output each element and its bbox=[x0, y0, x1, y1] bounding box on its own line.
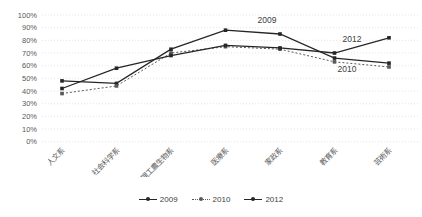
legend-label-2010: 2010 bbox=[213, 195, 231, 204]
data-point-marker-2012 bbox=[60, 87, 64, 91]
x-axis-category-label: 社会科学系 bbox=[89, 145, 122, 177]
data-point-marker-2009 bbox=[278, 32, 282, 36]
y-axis-tick-label: 100% bbox=[18, 11, 38, 20]
y-axis-tick-label: 90% bbox=[22, 23, 37, 32]
line-chart: 0%10%20%30%40%50%60%70%80%90%100%人文系社会科学… bbox=[0, 0, 422, 217]
data-point-marker-2009 bbox=[333, 56, 337, 60]
x-axis-category-label: 人文系 bbox=[44, 145, 67, 168]
x-axis-category-label: 芸術系 bbox=[371, 145, 394, 168]
x-axis-category-label: 医療系 bbox=[208, 145, 231, 168]
series-label-2012: 2012 bbox=[343, 34, 362, 44]
series-line-2009 bbox=[62, 30, 389, 83]
legend-line-marker-icon bbox=[244, 197, 262, 202]
data-point-marker-2009 bbox=[387, 61, 391, 65]
y-axis-tick-label: 50% bbox=[22, 74, 37, 83]
data-point-marker-2012 bbox=[333, 51, 337, 55]
legend-label-2009: 2009 bbox=[160, 195, 178, 204]
y-axis-tick-label: 20% bbox=[22, 112, 37, 121]
data-point-marker-2010 bbox=[60, 92, 64, 96]
chart-legend: 2009 2010 2012 bbox=[0, 195, 422, 204]
legend-item-2010: 2010 bbox=[192, 195, 231, 204]
y-axis-tick-label: 0% bbox=[26, 137, 37, 146]
y-axis-tick-label: 80% bbox=[22, 36, 37, 45]
data-point-marker-2012 bbox=[169, 54, 173, 58]
legend-line-marker-icon bbox=[139, 197, 157, 202]
legend-dotted-marker-icon bbox=[192, 197, 210, 202]
data-point-marker-2012 bbox=[387, 36, 391, 40]
y-axis-tick-label: 60% bbox=[22, 61, 37, 70]
series-label-2009: 2009 bbox=[258, 15, 277, 25]
data-point-marker-2012 bbox=[278, 46, 282, 50]
x-axis-category-label: 教育系 bbox=[317, 145, 340, 168]
y-axis-tick-label: 10% bbox=[22, 125, 37, 134]
y-axis-tick-label: 30% bbox=[22, 99, 37, 108]
y-axis-tick-label: 70% bbox=[22, 49, 37, 58]
data-point-marker-2012 bbox=[224, 44, 228, 48]
legend-item-2009: 2009 bbox=[139, 195, 178, 204]
data-point-marker-2012 bbox=[115, 66, 119, 70]
data-point-marker-2010 bbox=[333, 60, 337, 64]
data-point-marker-2009 bbox=[224, 28, 228, 32]
legend-label-2012: 2012 bbox=[265, 195, 283, 204]
data-point-marker-2009 bbox=[60, 79, 64, 83]
x-axis-category-label: 家政系 bbox=[262, 145, 285, 168]
data-point-marker-2010 bbox=[115, 84, 119, 88]
x-axis-category-label: 理工農生物系 bbox=[139, 145, 176, 177]
y-axis-tick-label: 40% bbox=[22, 87, 37, 96]
chart-plot-area: 0%10%20%30%40%50%60%70%80%90%100%人文系社会科学… bbox=[0, 0, 422, 177]
data-point-marker-2010 bbox=[387, 65, 391, 69]
series-label-2010: 2010 bbox=[338, 64, 357, 74]
data-point-marker-2009 bbox=[169, 47, 173, 51]
legend-item-2012: 2012 bbox=[244, 195, 283, 204]
